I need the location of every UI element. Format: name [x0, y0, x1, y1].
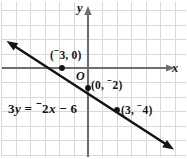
- comma: ,: [101, 79, 104, 91]
- origin-label: O: [76, 70, 85, 82]
- equation-minus-sign: −: [59, 101, 67, 116]
- equation-constant: 6: [70, 101, 77, 116]
- axis-lines: [2, 12, 169, 157]
- line-arrowhead-lower-right: [162, 140, 174, 150]
- paren-close: ): [77, 49, 81, 61]
- equation-rhs-variable: x: [49, 101, 56, 116]
- comma: ,: [131, 104, 134, 116]
- comma: ,: [65, 49, 68, 61]
- point-label-3-minus4: (3,⁻4): [121, 103, 152, 116]
- equation-lhs-coefficient: 3: [8, 101, 15, 116]
- y-axis-label: y: [77, 2, 83, 15]
- plotted-line: [12, 45, 168, 146]
- point-label-0-minus2: (0,⁻2): [91, 78, 122, 91]
- equation-lhs-variable: y: [15, 101, 21, 116]
- data-point-marker: [114, 107, 120, 113]
- equation-equals-sign: =: [24, 101, 32, 116]
- paren-close: ): [148, 104, 152, 116]
- data-point-marker: [59, 65, 65, 71]
- equation-label: 3y=⁻2x−6: [8, 101, 77, 115]
- equation-rhs-coefficient: 2: [42, 101, 49, 116]
- graph-figure: y x O (⁻3,0) (0,⁻2) (3,⁻4) 3y=⁻2x−6: [0, 0, 187, 159]
- x-axis-label: x: [172, 62, 178, 75]
- paren-close: ): [118, 79, 122, 91]
- raised-minus-icon: ⁻: [36, 101, 42, 112]
- point-label-minus3-0: (⁻3,0): [50, 48, 81, 61]
